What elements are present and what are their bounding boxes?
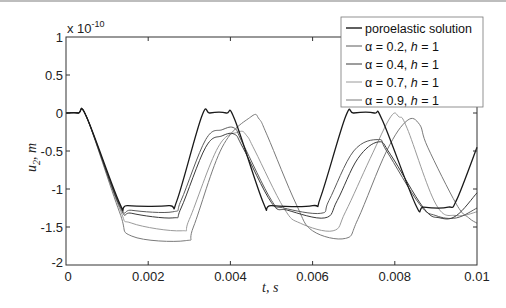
x-tick-label: 0.01 [464, 269, 489, 284]
y-tick-label: -1.5 [41, 220, 63, 235]
x-tick-label: 0 [64, 269, 71, 284]
legend-label: α = 0.4, h = 1 [365, 58, 439, 72]
legend-label: poroelastic solution [365, 22, 472, 36]
y-tick-label: 0 [56, 106, 63, 121]
y-tick-label: -0.5 [41, 144, 63, 159]
y-tick-label: 1 [56, 30, 63, 45]
x-tick-label: 0.006 [296, 269, 329, 284]
x-axis-title: t, s [262, 280, 279, 295]
x-tick-label: 0.008 [379, 269, 412, 284]
legend-label: α = 0.9, h = 1 [365, 94, 439, 108]
y-axis-title: u2, m [24, 143, 42, 172]
y-exponent-label: x 10-10 [67, 19, 105, 36]
x-tick-label: 0.004 [214, 269, 247, 284]
y-tick-label: -2 [51, 255, 63, 270]
legend-label: α = 0.2, h = 1 [365, 40, 439, 54]
y-tick-label: -1 [51, 182, 63, 197]
x-tick-label: 0.002 [132, 269, 165, 284]
line-chart: 00.0020.0040.0060.0080.01 10.50-0.5-1-1.… [0, 0, 506, 308]
legend: poroelastic solutionα = 0.2, h = 1α = 0.… [341, 17, 483, 108]
y-tick-label: 0.5 [45, 68, 63, 83]
legend-label: α = 0.7, h = 1 [365, 76, 439, 90]
